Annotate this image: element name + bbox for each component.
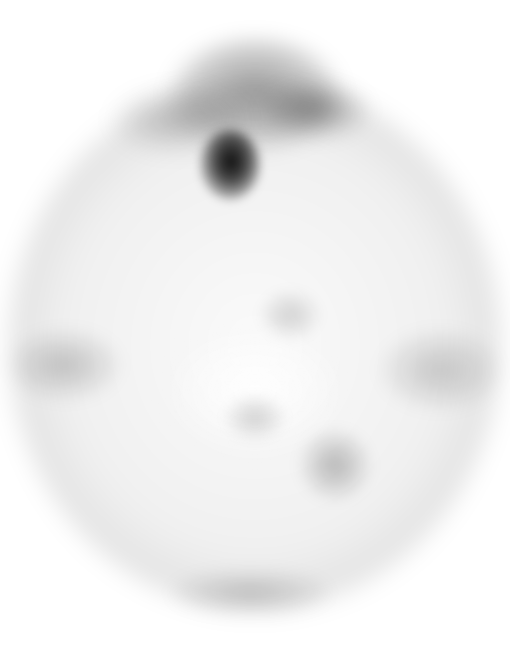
temporal-left-band [10,330,120,400]
focal-hot-spot [200,130,260,200]
frontal-right-region [260,80,370,140]
occipital-spot [300,430,370,500]
central-spot [225,395,285,440]
temporal-right-band [380,330,500,410]
brain-scan-image [0,0,510,657]
posterior-rim [170,570,330,615]
